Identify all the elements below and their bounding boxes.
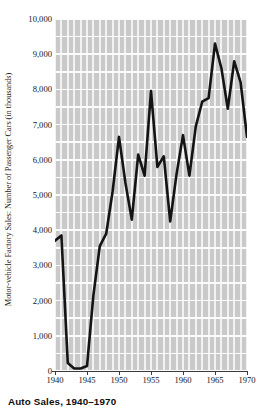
line-series — [55, 19, 247, 371]
y-tick-label: 2,000 — [33, 296, 52, 306]
y-axis-title-text: Motor-vehicle Factory Sales: Number of P… — [5, 72, 14, 305]
y-tick-label: 4,000 — [33, 225, 52, 235]
y-tick-label: 3,000 — [33, 260, 52, 270]
x-tick-label: 1970 — [238, 375, 255, 385]
x-tick-mark — [55, 371, 56, 375]
y-axis-title: Motor-vehicle Factory Sales: Number of P… — [0, 0, 18, 378]
figure-caption: Auto Sales, 1940–1970 — [8, 396, 116, 407]
plot-area — [55, 19, 247, 371]
x-tick-label: 1945 — [78, 375, 95, 385]
x-tick-mark — [183, 371, 184, 375]
y-tick-label: 9,000 — [33, 49, 52, 59]
x-tick-mark — [215, 371, 216, 375]
y-tick-label: 1,000 — [33, 331, 52, 341]
x-tick-mark — [247, 371, 248, 375]
x-tick-label: 1960 — [174, 375, 191, 385]
x-tick-label: 1965 — [206, 375, 223, 385]
y-tick-label: 8,000 — [33, 84, 52, 94]
x-tick-label: 1940 — [46, 375, 63, 385]
x-tick-label: 1950 — [110, 375, 127, 385]
x-tick-label: 1955 — [142, 375, 159, 385]
x-tick-mark — [119, 371, 120, 375]
y-tick-label: 10,000 — [28, 14, 52, 24]
y-tick-label: 7,000 — [33, 120, 52, 130]
x-tick-mark — [151, 371, 152, 375]
chart-figure: Motor-vehicle Factory Sales: Number of P… — [0, 0, 266, 413]
y-tick-label: 5,000 — [33, 190, 52, 200]
x-axis-tick-labels: 1940194519501955196019651970 — [55, 375, 247, 389]
y-axis-tick-labels: 01,0002,0003,0004,0005,0006,0007,0008,00… — [18, 0, 55, 378]
y-tick-label: 6,000 — [33, 155, 52, 165]
x-tick-mark — [87, 371, 88, 375]
